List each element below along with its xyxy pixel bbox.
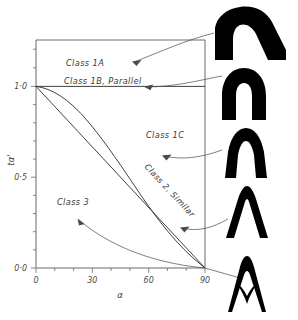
fold-profile-class-1b [222, 68, 266, 120]
fold-profile-class-1a [215, 7, 286, 60]
curve-class-2-similar [36, 86, 205, 268]
figure-canvas: 1·0 0·5 0·0 0 30 60 90 α tα' Class 1A Cl… [0, 0, 298, 320]
leader-class-3-extension [205, 268, 240, 278]
x-axis-label: α [117, 290, 123, 300]
frame-border [36, 40, 205, 268]
fold-profile-class-3 [228, 256, 266, 312]
annotation-leaders [78, 33, 241, 278]
x-tick-label-30: 30 [87, 276, 97, 285]
x-tick-label-60: 60 [144, 276, 154, 285]
y-tick-label-0-0: 0·0 [14, 264, 27, 273]
ramsay-fold-classification-figure: 1·0 0·5 0·0 0 30 60 90 α tα' Class 1A Cl… [0, 0, 298, 320]
fold-class-1c-shape [225, 128, 267, 178]
y-axis-ticks [31, 49, 36, 268]
y-axis-label: tα' [6, 154, 16, 165]
label-class-3: Class 3 [57, 197, 89, 207]
fold-class-3-inner-wedge [236, 282, 258, 304]
arrowhead-class-1a [132, 60, 142, 66]
boundary-curves [36, 86, 205, 268]
leader-class-1c [164, 150, 222, 158]
y-tick-label-1-0: 1·0 [14, 82, 27, 91]
label-class-2: Class 2, Similar [143, 162, 198, 220]
x-tick-label-90: 90 [200, 276, 210, 285]
arrowhead-class-3 [78, 219, 85, 226]
label-class-1b: Class 1B, Parallel [64, 76, 142, 86]
y-tick-label-0-5: 0·5 [14, 173, 27, 182]
fold-class-2-shape [226, 186, 268, 238]
fold-class-1a-shape [215, 7, 286, 60]
label-class-1a: Class 1A [66, 58, 104, 68]
fold-profile-class-1c [225, 128, 267, 178]
field-labels: Class 1A Class 1B, Parallel Class 1C Cla… [57, 58, 197, 219]
label-class-1c: Class 1C [146, 130, 184, 140]
arrowhead-class-1b [144, 85, 153, 91]
x-axis-ticks [36, 268, 205, 273]
x-tick-label-0: 0 [33, 276, 38, 285]
leader-class-1b [146, 76, 222, 87]
leader-class-1a [134, 33, 214, 62]
fold-profile-class-2 [226, 186, 268, 238]
plot-frame [36, 40, 205, 268]
fold-class-1b-shape [222, 68, 266, 120]
axis-tick-labels: 1·0 0·5 0·0 0 30 60 90 [14, 82, 210, 285]
